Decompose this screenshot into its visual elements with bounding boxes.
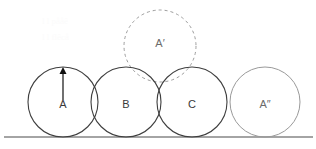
circle-b-group: B xyxy=(91,67,161,137)
circle-b-label: B xyxy=(122,98,129,110)
arrow-up-icon xyxy=(60,67,67,100)
circle-a-prime-label: A′ xyxy=(155,37,164,49)
ghost-text-line-1: l l pååê xyxy=(42,16,68,26)
ghost-text-line-2: l l flêcå xyxy=(42,32,69,42)
circle-c-group: C xyxy=(157,67,227,137)
circle-a-double-prime-group: A″ xyxy=(230,67,300,137)
arrow-head xyxy=(60,67,67,74)
ghost-text-group: l l pååê l l flêcå xyxy=(42,16,69,42)
physics-figure-rolling-circles: l l pååê l l flêcå A′ A B C A″ xyxy=(0,0,316,149)
dashed-circle-group: A′ xyxy=(124,10,196,82)
circle-a-double-prime-label: A″ xyxy=(259,98,270,110)
circle-c-label: C xyxy=(188,98,196,110)
figure-canvas: l l pååê l l flêcå A′ A B C A″ xyxy=(0,0,316,149)
